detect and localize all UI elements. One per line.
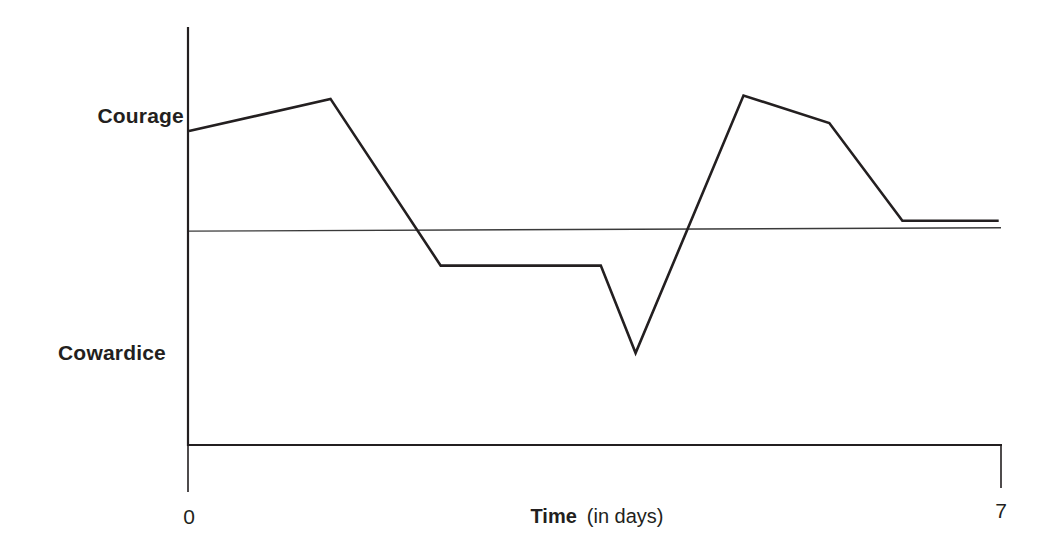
axes [188,27,1002,492]
x-tick-label-end: 7 [995,499,1007,522]
x-tick-label-start: 0 [183,505,195,528]
y-label-courage: Courage [97,104,184,127]
x-axis-title: Time (in days) [530,505,663,527]
neutral-reference-line [189,228,1001,231]
x-axis-title-main: Time [530,505,576,527]
series-line-0 [189,96,999,354]
y-label-cowardice: Cowardice [58,341,166,364]
courage-timeline-chart: Courage Cowardice 0 7 Time (in days) [0,0,1054,548]
x-axis-title-unit: (in days) [587,505,664,527]
series-layer [189,96,999,354]
